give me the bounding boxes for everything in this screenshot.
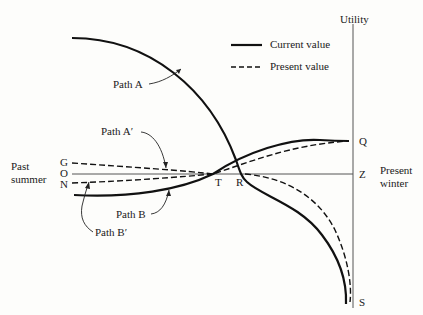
path-b-curve — [74, 140, 349, 196]
point-n-label: N — [60, 178, 68, 191]
path-a-prime-label: Path A′ — [101, 125, 133, 138]
legend-present-value-label: Present value — [270, 60, 329, 73]
legend-current-value-label: Current value — [270, 38, 330, 51]
point-z-label: Z — [359, 168, 366, 181]
utility-axis-label: Utility — [340, 13, 369, 26]
present-label-line2: winter — [380, 177, 408, 190]
point-s-label: S — [359, 296, 365, 309]
present-label-line1: Present — [380, 164, 412, 177]
past-label-line1: Past — [11, 160, 29, 173]
present-value-down-curve — [245, 174, 350, 302]
path-a-leader — [149, 69, 181, 84]
path-b-leader — [151, 190, 169, 214]
path-a-prime-curve — [72, 141, 348, 174]
point-r-label: R — [236, 176, 243, 189]
path-a-label: Path A — [113, 78, 143, 91]
path-b-prime-leader — [81, 182, 93, 232]
past-label-line2: summer — [11, 173, 46, 186]
point-t-label: T — [215, 176, 222, 189]
point-q-label: Q — [359, 135, 367, 148]
path-a-prime-leader — [141, 132, 166, 168]
path-b-label: Path B — [116, 208, 146, 221]
path-a-arrowhead — [176, 69, 181, 74]
path-b-prime-label: Path B′ — [95, 226, 127, 239]
